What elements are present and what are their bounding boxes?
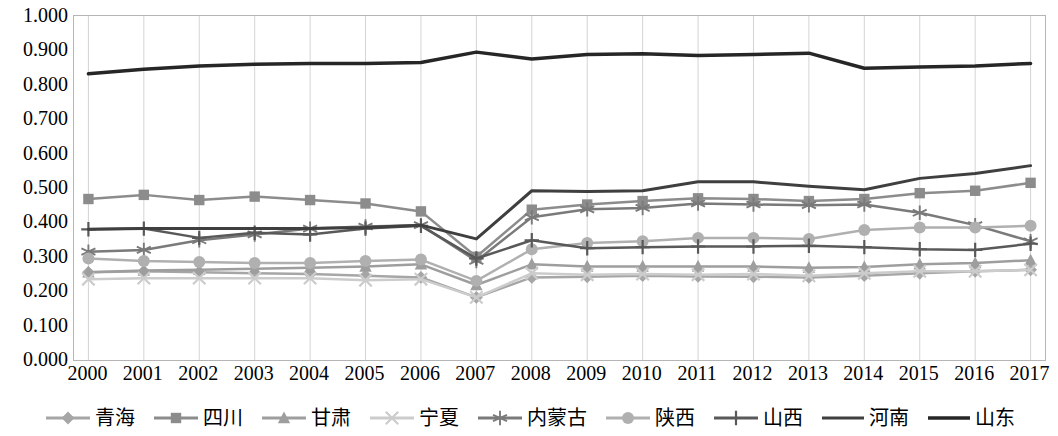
legend-label: 宁夏	[419, 408, 459, 428]
data-point-marker	[305, 195, 315, 205]
data-point-marker	[692, 270, 705, 283]
legend-label: 四川	[203, 408, 243, 428]
data-point-marker	[915, 188, 925, 198]
y-axis-tick-label: 0.100	[0, 315, 68, 335]
legend-label: 内蒙古	[527, 408, 587, 428]
y-axis-tick-label: 0.300	[0, 246, 68, 266]
y-axis-tick-label: 0.800	[0, 74, 68, 94]
legend-label: 山东	[975, 408, 1015, 428]
legend-key-diamond-icon	[44, 408, 92, 428]
data-point-marker	[138, 255, 150, 267]
data-point-marker	[304, 257, 316, 269]
data-point-marker	[194, 195, 204, 205]
data-point-marker	[968, 243, 982, 257]
legend-item-青海[interactable]: 青海	[44, 408, 135, 428]
legend-key-x-icon	[368, 408, 416, 428]
data-point-marker	[970, 186, 980, 196]
x-axis-tick-label: 2016	[954, 363, 994, 383]
legend-label: 甘肃	[311, 408, 351, 428]
y-axis: 0.0000.1000.2000.3000.4000.5000.6000.700…	[0, 0, 68, 376]
legend-label: 山西	[763, 408, 803, 428]
data-point-marker	[969, 222, 981, 234]
legend-label: 青海	[95, 408, 135, 428]
data-point-marker	[728, 410, 742, 424]
x-axis-tick-label: 2005	[345, 363, 385, 383]
x-axis-tick-label: 2003	[234, 363, 274, 383]
legend-key-asterisk-icon	[476, 408, 524, 428]
x-axis-tick-label: 2012	[732, 363, 772, 383]
chart-legend: 青海四川甘肃宁夏内蒙古陕西山西河南山东	[0, 399, 1058, 436]
legend-label: 河南	[869, 408, 909, 428]
series-山东	[88, 52, 1030, 74]
x-axis: 2000200120022003200420052006200720082009…	[73, 363, 1046, 393]
series-山西	[81, 219, 1038, 266]
data-point-marker	[139, 190, 149, 200]
data-point-marker	[525, 233, 539, 247]
legend-item-甘肃[interactable]: 甘肃	[260, 408, 351, 428]
legend-item-宁夏[interactable]: 宁夏	[368, 408, 459, 428]
x-axis-tick-label: 2010	[622, 363, 662, 383]
legend-key-none-icon	[926, 408, 972, 428]
data-point-marker	[360, 255, 372, 267]
data-point-marker	[857, 240, 871, 254]
data-point-marker	[858, 224, 870, 236]
plot-area	[73, 15, 1046, 361]
y-axis-tick-label: 0.600	[0, 143, 68, 163]
y-axis-tick-label: 0.500	[0, 177, 68, 197]
data-point-marker	[746, 239, 760, 253]
y-axis-tick-label: 0.000	[0, 349, 68, 369]
x-axis-tick-label: 2000	[67, 363, 107, 383]
legend-item-山西[interactable]: 山西	[712, 408, 803, 428]
legend-item-四川[interactable]: 四川	[152, 408, 243, 428]
x-axis-tick-label: 2006	[400, 363, 440, 383]
legend-item-山东[interactable]: 山东	[926, 408, 1015, 428]
x-axis-tick-label: 2013	[788, 363, 828, 383]
plot-svg	[74, 16, 1045, 360]
legend-key-none-icon	[820, 408, 866, 428]
x-axis-tick-label: 2015	[899, 363, 939, 383]
x-axis-tick-label: 2001	[123, 363, 163, 383]
data-point-marker	[170, 412, 180, 422]
legend-item-内蒙古[interactable]: 内蒙古	[476, 408, 587, 428]
data-point-marker	[691, 239, 705, 253]
legend-item-河南[interactable]: 河南	[820, 408, 909, 428]
x-axis-tick-label: 2004	[289, 363, 329, 383]
data-point-marker	[747, 270, 760, 283]
data-point-marker	[360, 198, 370, 208]
y-axis-tick-label: 1.000	[0, 5, 68, 25]
data-point-marker	[249, 257, 261, 269]
legend-item-陕西[interactable]: 陕西	[604, 408, 695, 428]
data-point-marker	[581, 270, 594, 283]
data-point-marker	[1025, 220, 1037, 232]
x-axis-tick-label: 2011	[677, 363, 716, 383]
y-axis-tick-label: 0.200	[0, 280, 68, 300]
y-axis-tick-label: 0.900	[0, 39, 68, 59]
chart-page: 0.0000.1000.2000.3000.4000.5000.6000.700…	[0, 0, 1058, 436]
x-axis-tick-label: 2009	[566, 363, 606, 383]
series-line	[88, 52, 1030, 74]
data-point-marker	[415, 254, 427, 266]
data-point-marker	[61, 411, 74, 424]
series-line	[88, 203, 1030, 260]
legend-key-circle-icon	[604, 408, 652, 428]
x-axis-tick-label: 2008	[511, 363, 551, 383]
x-axis-tick-label: 2002	[178, 363, 218, 383]
x-axis-tick-label: 2017	[1010, 363, 1050, 383]
data-point-marker	[83, 194, 93, 204]
data-point-marker	[914, 222, 926, 234]
data-point-marker	[193, 256, 205, 268]
data-point-marker	[622, 412, 634, 424]
data-point-marker	[249, 191, 259, 201]
x-axis-tick-label: 2014	[843, 363, 883, 383]
data-point-marker	[913, 242, 927, 256]
series-line	[88, 226, 1030, 259]
data-point-marker	[416, 206, 426, 216]
data-point-marker	[470, 275, 482, 287]
legend-label: 陕西	[655, 408, 695, 428]
legend-key-square-icon	[152, 408, 200, 428]
data-point-marker	[82, 253, 94, 265]
x-axis-tick-label: 2007	[455, 363, 495, 383]
data-point-marker	[1025, 178, 1035, 188]
y-axis-tick-label: 0.700	[0, 108, 68, 128]
legend-key-triangle-icon	[260, 408, 308, 428]
